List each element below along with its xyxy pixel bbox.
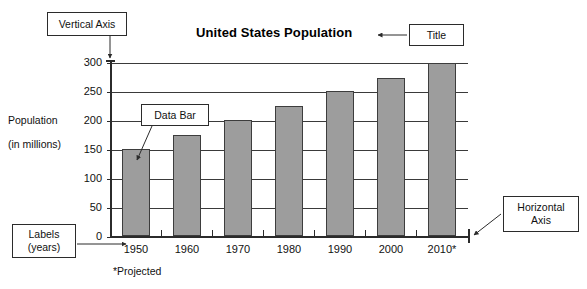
callout-title[interactable]: Title <box>409 24 464 46</box>
callout-labels-years[interactable]: Labels (years) <box>12 224 76 258</box>
callout-data-bar[interactable]: Data Bar <box>141 104 209 126</box>
callout-labels-years-line2: (years) <box>28 241 61 254</box>
x-axis-label-1970: 1970 <box>212 243 264 255</box>
bar-2010[interactable] <box>428 63 456 236</box>
x-axis-label-2010: 2010* <box>416 243 468 255</box>
y-axis-title-line2: (in millions) <box>8 137 61 151</box>
x-axis-label-1980: 1980 <box>263 243 315 255</box>
y-axis-tick-label-150: 150 <box>72 144 102 155</box>
x-axis-label-1960: 1960 <box>161 243 213 255</box>
x-tick-1 <box>161 230 162 237</box>
y-axis-tick-label-200: 200 <box>72 115 102 126</box>
x-tick-3 <box>263 230 264 237</box>
bar-1990[interactable] <box>326 91 354 236</box>
callout-horizontal-axis-line1: Horizontal <box>517 201 564 214</box>
callout-labels-years-line1: Labels <box>29 228 60 241</box>
chart-footnote: *Projected <box>113 264 161 278</box>
y-axis-line[interactable] <box>110 60 112 238</box>
bar-1950[interactable] <box>122 149 150 236</box>
plot-area: 300 250 200 150 100 50 0 1950 1960 1970 … <box>0 0 587 289</box>
gridline-250 <box>110 92 468 93</box>
y-axis-tick-label-100: 100 <box>72 173 102 184</box>
x-axis-right-cap <box>468 229 470 243</box>
y-axis-title-line1: Population <box>8 113 58 127</box>
x-tick-0 <box>110 230 111 237</box>
x-tick-2 <box>212 230 213 237</box>
y-axis-tick-label-0: 0 <box>72 231 102 242</box>
chart-diagram-page: Vertical Axis United States Population T… <box>0 0 587 289</box>
bar-1980[interactable] <box>275 106 303 236</box>
callout-title-label: Title <box>427 29 446 42</box>
y-axis-tick-label-250: 250 <box>72 86 102 97</box>
x-axis-label-1950: 1950 <box>110 243 162 255</box>
x-tick-4 <box>314 230 315 237</box>
y-axis-tick-label-300: 300 <box>72 57 102 68</box>
callout-horizontal-axis[interactable]: Horizontal Axis <box>503 196 579 232</box>
x-axis-label-2000: 2000 <box>365 243 417 255</box>
y-axis-tick-label-50: 50 <box>72 202 102 213</box>
callout-vertical-axis-label: Vertical Axis <box>59 18 116 31</box>
gridline-300 <box>110 63 468 64</box>
bar-1970[interactable] <box>224 120 252 236</box>
x-tick-6 <box>416 230 417 237</box>
bar-2000[interactable] <box>377 78 405 236</box>
x-tick-5 <box>365 230 366 237</box>
bar-1960[interactable] <box>173 135 201 236</box>
x-axis-label-1990: 1990 <box>314 243 366 255</box>
callout-data-bar-label: Data Bar <box>154 109 195 122</box>
callout-vertical-axis[interactable]: Vertical Axis <box>47 12 127 36</box>
y-axis-top-cap <box>106 60 115 62</box>
callout-horizontal-axis-line2: Axis <box>531 214 551 227</box>
chart-title: United States Population <box>196 25 352 40</box>
